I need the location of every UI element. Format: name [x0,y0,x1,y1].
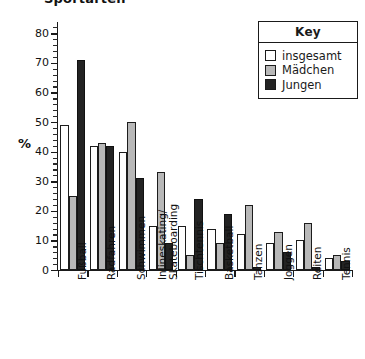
x-category-label: Basketball [224,226,235,280]
legend: Key insgesamtMädchenJungen [258,21,358,99]
bar-insgesamt-2 [119,152,127,270]
x-category-label: Radfahren [106,226,117,280]
legend-swatch-maedchen [265,65,276,76]
x-category-label: Tanzen [253,244,264,280]
bar-insgesamt-5 [207,229,215,270]
legend-label: insgesamt [282,50,342,62]
x-category-label: Tennis [341,247,352,280]
bar-insgesamt-7 [266,243,274,270]
bar-insgesamt-6 [237,234,245,270]
x-category-label: Joggen [283,244,294,280]
legend-item-insgesamt: insgesamt [265,50,357,62]
legend-items: insgesamtMädchenJungen [259,43,357,98]
bar-insgesamt-4 [178,226,186,270]
bar-insgesamt-1 [90,146,98,270]
legend-item-maedchen: Mädchen [265,64,357,76]
legend-label: Jungen [282,79,322,91]
x-category-label: Fußball [77,242,88,280]
bar-jungen-0 [77,60,85,270]
legend-label: Mädchen [282,64,334,76]
bar-insgesamt-9 [325,258,333,270]
legend-swatch-insgesamt [265,50,276,61]
x-category-label: Inlineskating/Skateboarding [157,204,179,280]
legend-title: Key [259,22,357,43]
bar-insgesamt-0 [60,125,68,270]
legend-item-jungen: Jungen [265,79,357,91]
legend-swatch-jungen [265,79,276,90]
x-category-label: Tischtennis [194,221,205,280]
x-category-label: Schwimmen [136,216,147,280]
bar-insgesamt-8 [296,240,304,270]
x-category-label: Reiten [312,247,323,280]
